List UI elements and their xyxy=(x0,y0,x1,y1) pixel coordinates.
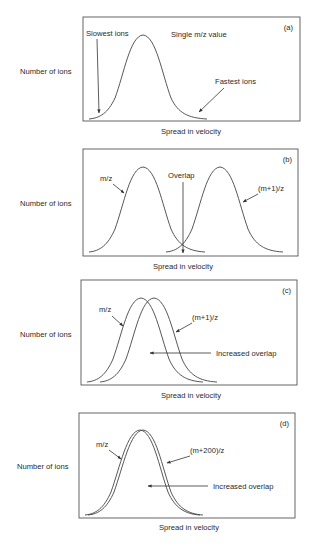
figure-canvas: (a) Single m/z value Number of ions Spre… xyxy=(0,0,314,546)
arrow-slowest-ions xyxy=(97,39,99,113)
panel-c-frame xyxy=(81,280,297,385)
panel-d-x-label: Spread in velocity xyxy=(159,523,219,532)
panel-c-y-label: Number of ions xyxy=(20,330,72,339)
label-increased-overlap: Increased overlap xyxy=(213,482,273,491)
curve-m1z xyxy=(100,298,217,382)
panel-a-y-label: Number of ions xyxy=(20,67,72,76)
panel-d-y-label: Number of ions xyxy=(17,462,69,471)
arrow-fastest-ions xyxy=(199,88,224,112)
label-increased-overlap: Increased overlap xyxy=(216,349,276,358)
panel-b-tag: (b) xyxy=(283,155,293,164)
panel-a: (a) Single m/z value Number of ions Spre… xyxy=(20,17,300,136)
panel-c: (c) Number of ions Spread in velocity m/… xyxy=(20,280,297,400)
panel-c-tag: (c) xyxy=(282,286,291,295)
panel-b-frame xyxy=(83,149,298,256)
label-overlap: Overlap xyxy=(168,171,195,180)
panel-b: (b) Number of ions Spread in velocity m/… xyxy=(20,149,298,271)
label-m1z: (m+1)/z xyxy=(258,184,284,193)
arrow-m1z xyxy=(176,323,192,332)
arrow-mz xyxy=(112,316,123,326)
panel-b-x-label: Spread in velocity xyxy=(153,262,213,271)
label-m1z: (m+1)/z xyxy=(192,313,218,322)
curve-single-mz xyxy=(89,35,207,119)
panel-a-x-label: Spread in velocity xyxy=(161,127,221,136)
panel-a-title: Single m/z value xyxy=(171,30,227,39)
panel-b-y-label: Number of ions xyxy=(20,199,72,208)
label-mz: m/z xyxy=(99,305,111,314)
arrow-mz xyxy=(113,184,124,193)
label-mz: m/z xyxy=(100,174,112,183)
arrow-m1z xyxy=(243,194,258,202)
label-mz: m/z xyxy=(96,440,108,449)
arrow-mz xyxy=(109,450,121,459)
label-fastest-ions: Fastest ions xyxy=(215,77,256,86)
label-slowest-ions: Slowest ions xyxy=(86,29,129,38)
panel-d-frame xyxy=(79,413,295,518)
panel-c-x-label: Spread in velocity xyxy=(161,391,221,400)
panel-d-tag: (d) xyxy=(280,419,290,428)
panel-d: (d) Number of ions Spread in velocity m/… xyxy=(17,413,295,532)
panel-a-tag: (a) xyxy=(284,23,294,32)
arrow-m200z xyxy=(167,456,190,463)
label-m200z: (m+200)/z xyxy=(190,446,225,455)
